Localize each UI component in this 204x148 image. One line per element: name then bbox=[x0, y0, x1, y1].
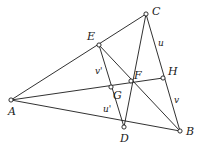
vertex-label-D: D bbox=[120, 133, 129, 144]
vertex-label-H: H bbox=[168, 66, 178, 77]
vertex-label-F: F bbox=[134, 70, 142, 81]
vertex-dot-B bbox=[178, 129, 182, 133]
vertex-label-G: G bbox=[113, 90, 122, 101]
vertex-label-C: C bbox=[152, 6, 160, 17]
vertex-label-E: E bbox=[87, 31, 95, 42]
vertex-dot-F bbox=[129, 79, 133, 83]
vertex-dot-A bbox=[9, 98, 13, 102]
segment-label-u-prime: u' bbox=[103, 105, 111, 114]
segment-label-u: u bbox=[158, 39, 164, 48]
segment-label-v: v bbox=[174, 96, 179, 105]
vertex-label-A: A bbox=[8, 106, 16, 117]
edge-A-C bbox=[11, 14, 146, 100]
vertex-dot-H bbox=[161, 76, 165, 80]
vertex-dot-D bbox=[122, 125, 126, 129]
vertex-dot-E bbox=[97, 43, 101, 47]
segment-label-v-prime: v' bbox=[95, 67, 103, 76]
vertex-dot-C bbox=[144, 12, 148, 16]
vertex-label-B: B bbox=[186, 126, 194, 137]
geometry-figure: A B C D E F G H u v v' u' bbox=[0, 0, 204, 148]
